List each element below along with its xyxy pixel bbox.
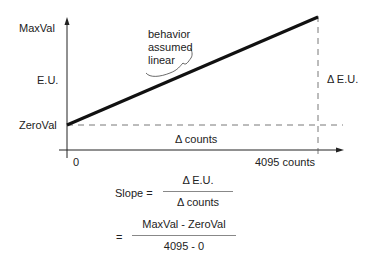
y-axis-arrow-icon bbox=[65, 17, 70, 25]
fraction1-denominator: Δ counts bbox=[163, 196, 233, 209]
eu-label: E.U. bbox=[37, 74, 58, 87]
fraction2-numerator: MaxVal - ZeroVal bbox=[132, 218, 236, 231]
fraction2-denominator: 4095 - 0 bbox=[132, 240, 236, 253]
delta-counts-label: Δ counts bbox=[175, 133, 217, 146]
x-end-label: 4095 counts bbox=[255, 156, 315, 169]
slope-label: Slope = bbox=[115, 187, 153, 200]
annotation-line-2: assumed bbox=[148, 41, 193, 54]
delta-eu-label: Δ E.U. bbox=[327, 73, 358, 86]
equals-sign: = bbox=[116, 231, 122, 244]
annotation-line-1: behavior bbox=[148, 28, 193, 41]
fraction1-numerator: Δ E.U. bbox=[163, 174, 233, 187]
expanded-fraction: MaxVal - ZeroVal 4095 - 0 bbox=[132, 218, 236, 253]
maxval-label: MaxVal bbox=[19, 22, 55, 35]
x-axis-arrow-icon bbox=[336, 148, 344, 153]
zeroval-label: ZeroVal bbox=[19, 119, 57, 132]
slope-fraction: Δ E.U. Δ counts bbox=[163, 174, 233, 209]
annotation: behavior assumed linear bbox=[148, 28, 193, 67]
annotation-line-3: linear bbox=[148, 54, 193, 67]
x-origin-label: 0 bbox=[73, 156, 79, 169]
